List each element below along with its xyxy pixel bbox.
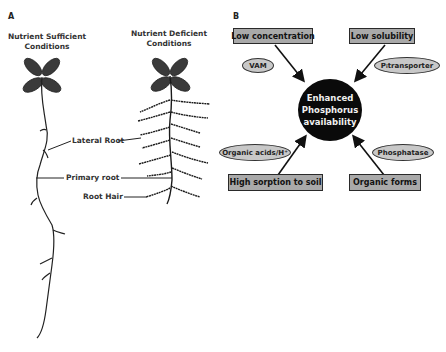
center-text-line: Enhanced xyxy=(307,92,354,104)
sufficient-primary-root xyxy=(31,77,65,338)
root-hair-label: Root Hair xyxy=(83,192,123,201)
center-text-line: Phosphorus xyxy=(302,104,358,116)
lateral-root-label: Lateral Root xyxy=(72,136,124,145)
deficient-root-system xyxy=(138,76,210,204)
high-sorption-box: High sorption to soil xyxy=(228,174,323,191)
pi-transporter-text: transporter xyxy=(388,62,434,70)
phosphatase-ellipse: Phosphatase xyxy=(372,144,434,161)
center-text-line: availability xyxy=(303,116,356,128)
label-leader-lines xyxy=(36,138,172,197)
low-solubility-box: Low solubility xyxy=(349,28,415,44)
enhanced-phosphorus-circle: Enhanced Phosphorus availability xyxy=(298,79,362,141)
deficient-plant-leaves xyxy=(149,55,193,94)
low-concentration-box: Low concentration xyxy=(233,28,313,44)
vam-ellipse: VAM xyxy=(242,58,274,73)
organic-forms-box: Organic forms xyxy=(349,174,421,191)
primary-root-label: Primary root xyxy=(66,173,119,182)
panel-b-label: B xyxy=(233,12,239,21)
pi-transporter-ellipse: Pi transporter xyxy=(374,57,440,74)
organic-acids-ellipse: Organic acids/H⁺ xyxy=(219,144,291,161)
